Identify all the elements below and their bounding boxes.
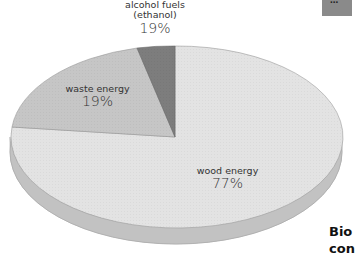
caption-line1: Bio [329,224,352,239]
label-wood-energy: wood energy 77% [185,166,270,192]
label-waste-pct: 19% [55,94,140,109]
label-waste-energy: waste energy 19% [55,84,140,110]
caption-line2: con [329,241,355,256]
label-wood-pct: 77% [185,176,270,191]
label-alcohol-pct: 19% [110,21,200,36]
corner-box-text: ... [330,0,338,5]
corner-box: ... [322,0,352,16]
label-alcohol-fuels: alcohol fuels (ethanol) 19% [110,0,200,36]
